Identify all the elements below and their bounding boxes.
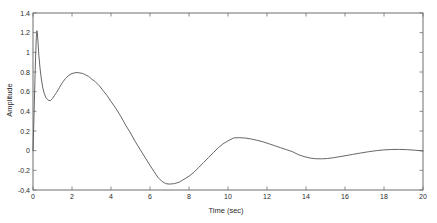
y-tick-label: -0.2 [18, 167, 30, 174]
y-tick-label: 1.4 [20, 10, 30, 17]
x-tick-label: 8 [187, 193, 191, 200]
y-tick-label: 0.6 [20, 88, 30, 95]
y-tick-label: 0.2 [20, 128, 30, 135]
axes-box [33, 13, 423, 190]
y-tick-label: 0.8 [20, 69, 30, 76]
x-tick-label: 6 [148, 193, 152, 200]
y-tick-label: 0 [26, 147, 30, 154]
x-tick-label: 2 [70, 193, 74, 200]
y-tick-label: 0.4 [20, 108, 30, 115]
x-tick-labels: 02468101214161820 [31, 193, 427, 200]
data-series-group [33, 31, 423, 184]
x-tick-label: 20 [419, 193, 427, 200]
x-axis-title: Time (sec) [208, 206, 244, 215]
x-tick-label: 10 [224, 193, 232, 200]
axis-ticks [33, 13, 423, 190]
y-tick-label: -0.4 [18, 187, 30, 194]
y-tick-labels: -0.4-0.200.20.40.60.811.21.4 [18, 10, 30, 194]
figure-canvas: 02468101214161820 -0.4-0.200.20.40.60.81… [0, 0, 437, 223]
x-tick-label: 16 [341, 193, 349, 200]
y-axis-title: Amplitude [5, 83, 14, 116]
x-tick-label: 18 [380, 193, 388, 200]
x-tick-label: 14 [302, 193, 310, 200]
x-tick-label: 0 [31, 193, 35, 200]
y-tick-label: 1 [26, 49, 30, 56]
y-tick-label: 1.2 [20, 29, 30, 36]
x-tick-label: 12 [263, 193, 271, 200]
line-chart: 02468101214161820 -0.4-0.200.20.40.60.81… [0, 0, 437, 223]
x-tick-label: 4 [109, 193, 113, 200]
data-series-line [33, 31, 423, 184]
